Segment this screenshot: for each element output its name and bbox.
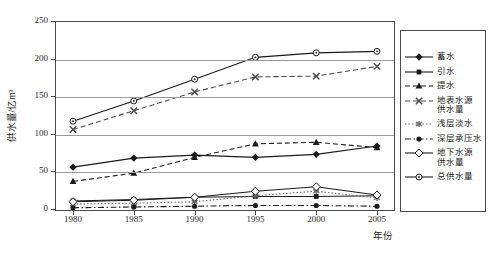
x-tick-label-1980: 1980 bbox=[64, 214, 82, 224]
legend-marker-filled-diamond-icon bbox=[404, 52, 434, 62]
legend-label-8: 总供水量 bbox=[437, 172, 473, 182]
y-tick-label-50: 50 bbox=[0, 166, 48, 175]
x-tick-mark-2005 bbox=[377, 211, 378, 215]
gridline-150 bbox=[56, 97, 394, 98]
data-series-layer bbox=[56, 22, 394, 210]
legend-item-7[interactable]: 地下水源 供水量 bbox=[404, 148, 488, 167]
y-tick-label-200: 200 bbox=[0, 54, 48, 63]
legend-label-4: 地表水源 供水量 bbox=[437, 96, 473, 115]
legend: 蓄水引水提水地表水源 供水量浅层淡水深层承压水地下水源 供水量总供水量 bbox=[404, 52, 488, 186]
legend-marker-cross-x-icon bbox=[404, 96, 434, 106]
legend-marker-filled-triangle-icon bbox=[404, 81, 434, 91]
series-5 bbox=[70, 188, 380, 207]
series-3 bbox=[70, 139, 381, 184]
legend-item-8[interactable]: 总供水量 bbox=[404, 172, 488, 182]
y-tick-label-150: 150 bbox=[0, 91, 48, 100]
y-tick-label-0: 0 bbox=[0, 204, 48, 213]
legend-marker-asterisk-icon bbox=[404, 119, 434, 129]
legend-label-3: 提水 bbox=[437, 81, 455, 91]
x-tick-label-2005: 2005 bbox=[368, 214, 386, 224]
legend-item-6[interactable]: 深层承压水 bbox=[404, 134, 488, 144]
x-axis-label: 年份 bbox=[373, 228, 393, 242]
series-6 bbox=[70, 203, 379, 210]
x-tick-mark-1980 bbox=[73, 211, 74, 215]
supply-water-line-chart: 供水量/亿m³ 050100150200250 1980198519901995… bbox=[0, 0, 489, 272]
legend-label-1: 蓄水 bbox=[437, 52, 455, 62]
series-7 bbox=[69, 183, 381, 206]
legend-item-2[interactable]: 引水 bbox=[404, 67, 488, 77]
gridline-50 bbox=[56, 172, 394, 173]
legend-label-2: 引水 bbox=[437, 67, 455, 77]
legend-item-3[interactable]: 提水 bbox=[404, 81, 488, 91]
legend-label-6: 深层承压水 bbox=[437, 134, 482, 144]
gridline-100 bbox=[56, 135, 394, 136]
plot-area bbox=[55, 21, 395, 211]
legend-marker-open-diamond-icon bbox=[404, 148, 434, 158]
legend-marker-filled-circle-icon bbox=[404, 134, 434, 144]
x-tick-mark-2000 bbox=[316, 211, 317, 215]
series-2 bbox=[71, 193, 380, 203]
legend-marker-filled-square-icon bbox=[404, 67, 434, 77]
legend-item-1[interactable]: 蓄水 bbox=[404, 52, 488, 62]
y-tick-label-100: 100 bbox=[0, 129, 48, 138]
x-tick-label-2000: 2000 bbox=[307, 214, 325, 224]
legend-marker-open-circle-dot-icon bbox=[404, 172, 434, 182]
gridline-200 bbox=[56, 60, 394, 61]
x-tick-mark-1995 bbox=[255, 211, 256, 215]
x-tick-label-1995: 1995 bbox=[246, 214, 264, 224]
y-tick-label-250: 250 bbox=[0, 16, 48, 25]
y-axis-label-wrap: 供水量/亿m³ bbox=[3, 21, 19, 211]
x-tick-mark-1990 bbox=[195, 211, 196, 215]
legend-item-5[interactable]: 浅层淡水 bbox=[404, 119, 488, 129]
legend-item-4[interactable]: 地表水源 供水量 bbox=[404, 96, 488, 115]
legend-label-5: 浅层淡水 bbox=[437, 119, 473, 129]
series-1 bbox=[69, 142, 380, 170]
x-tick-mark-1985 bbox=[134, 211, 135, 215]
x-tick-label-1990: 1990 bbox=[186, 214, 204, 224]
legend-label-7: 地下水源 供水量 bbox=[437, 148, 473, 167]
x-tick-label-1985: 1985 bbox=[125, 214, 143, 224]
